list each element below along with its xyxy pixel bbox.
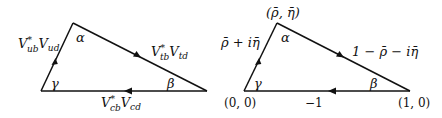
right-bottom-edge-label: −1 — [305, 96, 323, 110]
origin-vertex-label: (0, 0) — [224, 96, 256, 110]
unitarity-triangle-diagram: V*ubVud V*tbVtd V*cbVcd α γ β (ρ̄, η̄) (… — [0, 0, 442, 118]
right-gamma-angle-label: γ — [254, 76, 262, 91]
top-edge-label: V*tbVtd — [151, 43, 188, 62]
right-triangle-bottom-arrow-icon — [328, 88, 336, 95]
beta-angle-label: β — [166, 76, 175, 91]
bottom-edge-label: V*cbVcd — [101, 94, 141, 113]
unit-vertex-label: (1, 0) — [398, 96, 430, 110]
left-edge-label: V*ubVud — [18, 35, 60, 54]
right-alpha-angle-label: α — [281, 30, 290, 45]
left-triangle: V*ubVud V*tbVtd V*cbVcd α γ β — [18, 23, 207, 113]
right-left-edge-label: ρ̄ + iη̄ — [220, 35, 260, 50]
apex-vertex-label: (ρ̄, η̄) — [266, 5, 300, 20]
gamma-angle-label: γ — [51, 76, 59, 91]
right-triangle-left-arrow-icon — [255, 58, 261, 65]
right-top-edge-label: 1 − ρ̄ − iη̄ — [352, 44, 418, 59]
right-triangle: (ρ̄, η̄) (0, 0) (1, 0) ρ̄ + iη̄ 1 − ρ̄ −… — [220, 5, 430, 110]
alpha-angle-label: α — [76, 30, 85, 45]
left-triangle-bottom-arrow-icon — [124, 88, 132, 95]
right-beta-angle-label: β — [369, 76, 378, 91]
